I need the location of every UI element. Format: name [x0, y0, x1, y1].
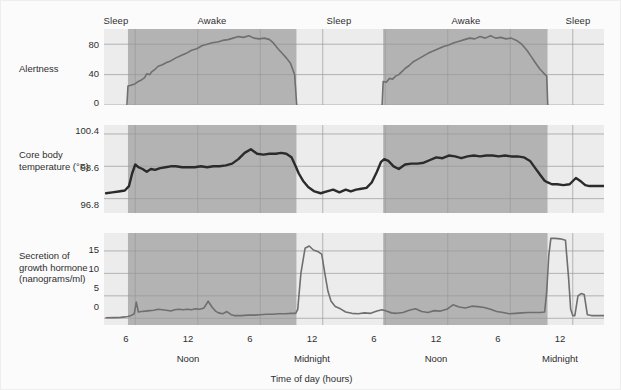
ytick-hormone-10: 10	[57, 263, 99, 274]
xsublabel-noon-1: Noon	[156, 353, 220, 364]
band-awake-1	[128, 233, 297, 325]
ytick-alertness-80: 80	[57, 39, 99, 50]
band-label-sleep-1: Sleep	[96, 15, 136, 26]
ytick-alertness-40: 40	[57, 68, 99, 79]
xtick-label-3: 12	[292, 333, 332, 344]
xtick-label-4: 6	[354, 333, 394, 344]
xsublabel-midnight-2: Midnight	[528, 353, 592, 364]
ytick-temperature-98-6: 98.6	[49, 162, 99, 173]
band-sleep-0	[104, 29, 128, 105]
band-sleep-4	[548, 125, 604, 213]
band-sleep-2	[297, 125, 383, 213]
band-label-awake-1: Awake	[192, 15, 232, 26]
panel-label-temperature-line-1: Core body	[19, 149, 89, 161]
ytick-hormone-5: 5	[57, 282, 99, 293]
ytick-hormone-15: 15	[57, 244, 99, 255]
x-axis-title: Time of day (hours)	[1, 373, 621, 384]
xtick-label-5: 12	[416, 333, 456, 344]
panel-label-alertness-line-1: Alertness	[19, 63, 59, 75]
xtick-label-1: 12	[168, 333, 208, 344]
panel-label-alertness: Alertness	[19, 63, 59, 75]
xtick-label-6: 6	[478, 333, 518, 344]
ytick-alertness-0: 0	[57, 97, 99, 108]
plot-panel-alertness	[104, 29, 604, 105]
plot-panel-growth-hormone	[104, 233, 604, 325]
band-sleep-0	[104, 233, 128, 325]
ytick-temperature-100-4: 100.4	[49, 125, 99, 136]
xtick-label-2: 6	[230, 333, 270, 344]
xsublabel-midnight-1: Midnight	[280, 353, 344, 364]
band-sleep-2	[297, 29, 383, 105]
band-label-sleep-2: Sleep	[319, 15, 359, 26]
xtick-label-0: 6	[106, 333, 146, 344]
band-label-awake-2: Awake	[446, 15, 486, 26]
circadian-rhythm-figure: Sleep Awake Sleep Awake Sleep Alertness …	[0, 0, 621, 390]
band-label-sleep-3: Sleep	[558, 15, 598, 26]
xtick-label-7: 12	[540, 333, 580, 344]
ytick-hormone-0: 0	[57, 301, 99, 312]
band-sleep-4	[548, 29, 604, 105]
band-sleep-0	[104, 125, 128, 213]
xsublabel-noon-2: Noon	[404, 353, 468, 364]
band-awake-3	[383, 125, 548, 213]
plot-panel-core-body-temperature	[104, 125, 604, 213]
ytick-temperature-96-8: 96.8	[49, 199, 99, 210]
